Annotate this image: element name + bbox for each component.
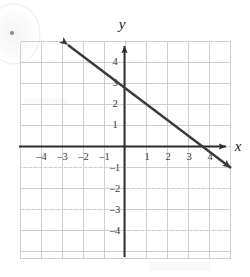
- x-tick-label: 4: [207, 151, 213, 162]
- y-tick-label: 4: [112, 56, 118, 67]
- y-tick-label: –4: [109, 225, 121, 236]
- x-axis-label: x: [234, 138, 242, 154]
- y-tick-label: –1: [109, 162, 121, 173]
- x-tick-label: –1: [98, 151, 110, 162]
- x-tick-label: –3: [56, 151, 68, 162]
- y-axis-label: y: [117, 16, 126, 32]
- y-tick-label: 1: [112, 119, 117, 130]
- x-tick-label: –4: [35, 151, 47, 162]
- y-tick-label: 2: [112, 98, 117, 109]
- graph-figure: y x –4 –3 –2 –1 1 2 3 4 4 3 2 1 –1 –2 –3…: [0, 0, 250, 277]
- y-tick-label: –3: [109, 204, 121, 215]
- y-tick-label: 3: [112, 77, 117, 88]
- x-tick-label: –2: [77, 151, 89, 162]
- x-tick-label: 2: [165, 151, 170, 162]
- x-tick-label: 1: [144, 151, 149, 162]
- coordinate-plane-svg: y x –4 –3 –2 –1 1 2 3 4 4 3 2 1 –1 –2 –3…: [0, 0, 250, 277]
- bullet-dot: [10, 31, 14, 35]
- x-tick-label: 3: [186, 151, 191, 162]
- y-tick-label: –2: [109, 183, 121, 194]
